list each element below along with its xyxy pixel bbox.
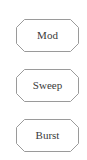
burst-button[interactable]: Burst [16, 119, 79, 152]
sweep-button[interactable]: Sweep [16, 69, 79, 102]
sweep-button-label: Sweep [16, 69, 79, 102]
mod-button-label: Mod [16, 19, 79, 52]
burst-button-label: Burst [16, 119, 79, 152]
mod-button[interactable]: Mod [16, 19, 79, 52]
